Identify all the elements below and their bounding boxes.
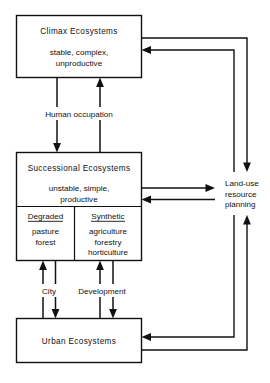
- arrowhead-up-to-climax: [96, 78, 104, 88]
- climax-attr-line-1: stable, complex,: [50, 48, 108, 57]
- landuse-line-3: planning: [225, 200, 256, 209]
- synthetic-heading: Synthetic: [91, 212, 124, 221]
- landuse-line-1: Land-use: [225, 179, 259, 188]
- synthetic-item-2: forestry: [95, 238, 123, 247]
- node-successional-ecosystems: Successional Ecosystems unstable, simple…: [17, 153, 142, 261]
- arrowhead-right-to-landuse: [206, 184, 216, 192]
- arrowhead-up-to-landuse: [243, 215, 251, 225]
- subnode-synthetic: Synthetic agriculture forestry horticult…: [88, 212, 129, 257]
- edge-landuse-to-climax: [142, 46, 235, 172]
- successional-attr-line-2: productive: [60, 195, 98, 204]
- edge-landuse-to-urban: [142, 215, 235, 341]
- diagram-canvas: Climax Ecosystems stable, complex, unpro…: [0, 0, 270, 383]
- degraded-item-1: pasture: [32, 227, 59, 236]
- label-development: Development: [78, 287, 126, 296]
- label-city: City: [42, 287, 57, 296]
- synthetic-item-1: agriculture: [89, 227, 127, 236]
- arrowhead-up-to-degraded: [39, 261, 47, 271]
- edge-successional-to-landuse: [142, 184, 216, 192]
- synthetic-item-3: horticulture: [88, 248, 129, 257]
- successional-attr-line-1: unstable, simple,: [49, 184, 110, 193]
- arrowhead-down-to-successional: [53, 143, 61, 153]
- urban-title: Urban Ecosystems: [42, 337, 116, 346]
- climax-attr-line-2: unproductive: [56, 59, 103, 68]
- arrowhead-up-to-synthetic: [96, 261, 104, 271]
- node-urban-ecosystems: Urban Ecosystems: [17, 319, 142, 363]
- node-landuse-resource-planning: Land-use resource planning: [225, 179, 259, 209]
- edge-landuse-to-successional: [142, 196, 216, 204]
- arrowhead-left-to-urban: [142, 333, 152, 341]
- label-human-occupation: Human occupation: [45, 110, 113, 119]
- successional-title: Successional Ecosystems: [28, 164, 131, 173]
- arrowhead-down-to-urban-left: [52, 309, 60, 319]
- arrowhead-down-to-urban-right: [109, 309, 117, 319]
- arrowhead-down-to-landuse: [243, 163, 251, 173]
- edge-development: Development: [68, 261, 136, 319]
- ecosystem-flow-diagram: Climax Ecosystems stable, complex, unpro…: [0, 0, 270, 383]
- node-climax-ecosystems: Climax Ecosystems stable, complex, unpro…: [17, 16, 142, 78]
- degraded-heading: Degraded: [28, 212, 64, 221]
- degraded-item-2: forest: [35, 238, 56, 247]
- arrowhead-left-to-successional: [142, 196, 152, 204]
- arrowhead-left-to-climax: [142, 46, 152, 54]
- climax-title: Climax Ecosystems: [40, 27, 117, 36]
- landuse-line-2: resource: [225, 190, 257, 199]
- subnode-degraded: Degraded pasture forest: [28, 212, 64, 247]
- edge-city: City: [32, 261, 66, 319]
- edge-human-occupation: Human occupation: [31, 78, 127, 153]
